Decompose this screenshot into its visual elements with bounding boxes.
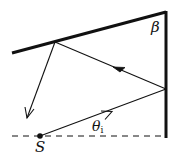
source-label: S xyxy=(35,140,45,155)
beta-angle-label: β xyxy=(151,20,160,35)
second-reflected-ray xyxy=(27,42,55,118)
slanted-mirror xyxy=(12,12,166,53)
first-reflected-ray xyxy=(55,42,166,89)
theta-incident-label: θi xyxy=(92,119,103,135)
mirror-reflection-diagram xyxy=(0,0,175,157)
theta-subscript: i xyxy=(100,125,103,135)
